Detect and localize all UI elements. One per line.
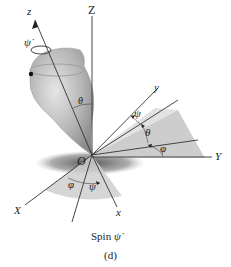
top-marker-dot bbox=[29, 72, 33, 76]
label-Y: Y bbox=[215, 151, 221, 162]
label-theta-top: θ bbox=[78, 96, 83, 106]
subtitle-symbol: ψ̇ bbox=[114, 230, 121, 242]
label-psi-dot: ψ̇ bbox=[24, 37, 31, 48]
label-phi-right: φ bbox=[160, 143, 166, 154]
label-X: X bbox=[14, 205, 21, 216]
label-psi-bottom: ψ bbox=[89, 181, 96, 192]
label-phi-bottom: φ bbox=[68, 179, 74, 190]
label-theta-right: θ bbox=[145, 127, 150, 138]
label-Z: Z bbox=[88, 4, 95, 16]
euler-angle-diagram bbox=[0, 0, 231, 267]
label-x: x bbox=[116, 207, 121, 218]
subtitle-word: Spin bbox=[91, 230, 111, 242]
subtitle-spin: Spin ψ̇ bbox=[91, 231, 121, 242]
caption: (d) bbox=[104, 250, 117, 261]
label-y: y bbox=[154, 82, 159, 93]
label-origin-O: O bbox=[77, 155, 86, 167]
label-psi-right: ψ bbox=[134, 108, 141, 119]
label-z: z bbox=[27, 6, 31, 17]
